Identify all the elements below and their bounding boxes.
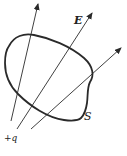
field-line-3-arrow xyxy=(31,48,121,129)
charge-label: +q xyxy=(4,133,18,143)
closed-surface-s xyxy=(5,34,92,120)
field-label-e: E xyxy=(73,14,83,27)
field-line-2-arrow xyxy=(17,13,92,129)
surface-label-s: S xyxy=(84,110,92,123)
gauss-diagram: E S +q xyxy=(0,0,127,156)
